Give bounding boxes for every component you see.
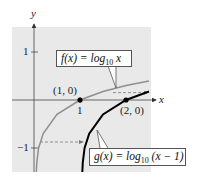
callout-f-prefix: f(x) = log (61, 52, 105, 64)
callout-g-prefix: g(x) = log (94, 150, 141, 162)
point-2-0 (123, 97, 128, 102)
point-label-1-0: (1, 0) (53, 85, 77, 96)
y-axis-label: y (31, 8, 36, 19)
point-1-0 (77, 97, 82, 102)
callout-g: g(x) = log10 (x − 1) (89, 148, 186, 166)
point-label-2-0: (2, 0) (120, 105, 144, 116)
y-tick-label-1: 1 (23, 46, 29, 57)
callout-f-sub: 10 (105, 58, 113, 67)
callout-g-suffix: (x − 1) (149, 150, 184, 162)
callout-g-sub: 10 (141, 156, 149, 165)
y-tick-label-neg1: −1 (17, 142, 29, 153)
x-tick-label-1: 1 (77, 105, 83, 116)
x-axis-label: x (159, 94, 164, 105)
callout-f: f(x) = log10 x (56, 50, 132, 67)
callout-f-suffix: x (113, 52, 121, 64)
